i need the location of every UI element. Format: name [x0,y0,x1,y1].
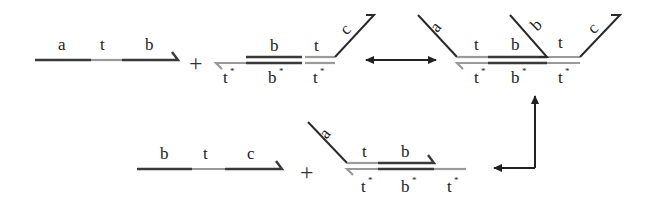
star: * [279,66,284,76]
star: * [368,175,373,185]
label-t: t [100,35,105,54]
label-b: b [145,35,154,54]
label-c: c [247,144,255,163]
label-a: a [426,18,446,36]
label-t-star: t [558,68,563,87]
label-b-star: b [401,177,410,196]
star: * [522,66,527,76]
complex-3: a t b t * b * t * [308,122,466,196]
label-t: t [314,36,319,55]
label-b-star: b [268,68,277,87]
star: * [565,66,570,76]
label-c: c [583,18,602,37]
star: * [320,66,325,76]
label-t: t [558,33,563,52]
label-b: b [160,144,169,163]
label-b: b [401,142,410,161]
bottom-domain-t-star-left [347,169,378,175]
label-t: t [203,144,208,163]
label-a: a [315,124,335,142]
label-c: c [336,19,355,38]
star: * [412,175,417,185]
strand-btc: b t c [137,144,282,169]
plus-sign: + [189,50,203,76]
label-t: t [362,142,367,161]
reaction-diagram: a t b + b t c t * b * t * [0,0,655,201]
label-t-star: t [447,177,452,196]
label-b: b [526,15,545,34]
label-t-star: t [474,68,479,87]
star: * [481,66,486,76]
label-t-star: t [313,68,318,87]
arm-a [308,122,347,163]
plus-sign: + [300,159,314,185]
complex-2: a b c t b t t * b * t * [418,15,620,87]
label-t-star: t [361,177,366,196]
complex-1: b t c t * b * t * [216,15,374,87]
strand-atb: a t b [35,35,178,60]
star: * [454,175,459,185]
star: * [230,66,235,76]
label-b: b [511,35,520,54]
label-b: b [270,36,279,55]
label-t: t [474,35,479,54]
arm-a [418,15,457,57]
label-t-star: t [223,68,228,87]
label-b-star: b [511,68,520,87]
label-a: a [58,35,66,54]
